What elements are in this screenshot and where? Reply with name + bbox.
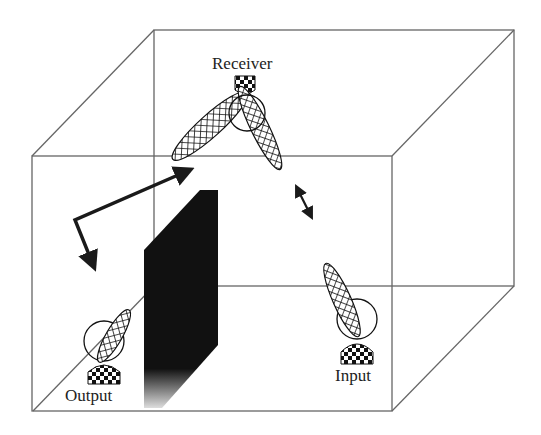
output-label: Output bbox=[65, 386, 112, 406]
output-antenna bbox=[84, 306, 136, 384]
cube-edge-bottom-right bbox=[392, 286, 514, 411]
output-checker-base bbox=[88, 365, 120, 384]
receiver-label: Receiver bbox=[212, 54, 272, 74]
input-antenna bbox=[318, 260, 377, 364]
output-beam-lobe bbox=[92, 306, 136, 366]
input-checker-base bbox=[341, 344, 373, 364]
cube-edge-top-left bbox=[32, 30, 154, 156]
input-label: Input bbox=[335, 366, 371, 386]
input-beam-lobe bbox=[318, 260, 367, 340]
movement-double-arrow bbox=[298, 190, 310, 214]
board-obstacle bbox=[144, 190, 218, 408]
cube-edge-top-right bbox=[392, 30, 514, 156]
receiver-antenna bbox=[165, 76, 288, 173]
